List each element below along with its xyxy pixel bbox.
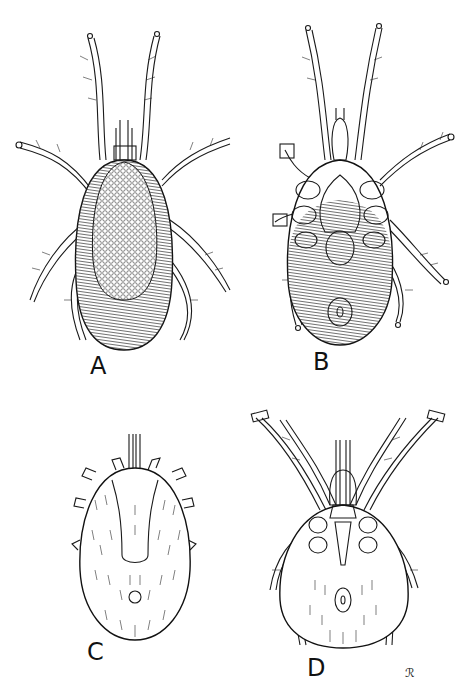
mite-c-drawing (72, 434, 196, 640)
mite-a-drawing (16, 32, 230, 351)
mite-d-drawing (251, 410, 445, 648)
panel-label-d: D (307, 656, 325, 680)
panel-label-a: A (90, 354, 106, 378)
panel-label-b: B (313, 350, 329, 374)
mite-b-drawing (273, 24, 454, 346)
mite-plate (0, 0, 466, 694)
panel-label-c: C (87, 640, 104, 664)
artist-signature: ℛ (405, 666, 415, 680)
